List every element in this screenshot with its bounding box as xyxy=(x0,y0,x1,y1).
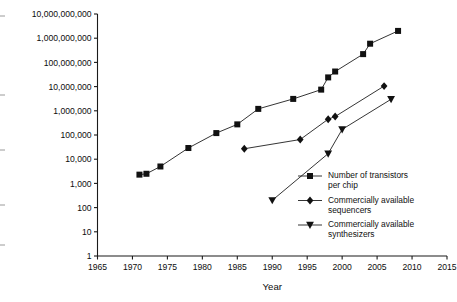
data-point-marker xyxy=(213,130,219,136)
data-point-marker xyxy=(325,74,331,80)
legend-label-line2: per chip xyxy=(328,180,358,190)
data-point-marker xyxy=(338,126,346,133)
x-axis-tick-label: 1985 xyxy=(228,262,247,272)
y-axis-tick-label: 1,000,000,000 xyxy=(37,33,92,43)
data-point-marker xyxy=(234,121,240,127)
data-point-marker xyxy=(297,136,304,144)
series-square xyxy=(136,28,401,178)
legend-label-line2: sequencers xyxy=(328,205,371,215)
x-axis-tick-label: 1995 xyxy=(298,262,317,272)
legend-marker-triangle-down-icon xyxy=(306,222,314,229)
data-point-marker xyxy=(325,115,332,123)
chart-legend: Number of transistorsper chipCommerciall… xyxy=(298,170,414,239)
y-axis-tick-label: 10 xyxy=(82,227,92,237)
x-axis-tick-label: 1980 xyxy=(193,262,212,272)
legend-label-line2: synthesizers xyxy=(328,229,375,239)
data-point-marker xyxy=(395,28,401,34)
data-point-marker xyxy=(157,163,163,169)
series-line xyxy=(244,86,384,149)
data-point-marker xyxy=(185,145,191,151)
legend-label-line1: Commercially available xyxy=(328,219,414,229)
log-line-chart: 1101001,00010,000100,0001,000,00010,000,… xyxy=(0,0,457,302)
y-axis-tick-label: 100 xyxy=(77,203,92,213)
x-axis-tick-label: 2000 xyxy=(333,262,352,272)
x-axis-tick-label: 2005 xyxy=(368,262,387,272)
x-axis-tick-label: 1970 xyxy=(123,262,142,272)
data-point-marker xyxy=(318,87,324,93)
x-axis-tick-label: 2010 xyxy=(402,262,421,272)
data-point-marker xyxy=(324,150,332,157)
data-point-marker xyxy=(268,197,276,204)
y-axis-tick-label: 1 xyxy=(87,251,92,261)
series-diamond xyxy=(241,82,388,153)
data-point-marker xyxy=(387,96,395,103)
legend-label-line1: Number of transistors xyxy=(328,170,408,180)
y-axis-tick-label: 10,000,000,000 xyxy=(32,9,92,19)
x-axis-title: Year xyxy=(263,281,283,292)
x-axis-tick-label: 1965 xyxy=(88,262,107,272)
y-axis-tick-label: 1,000,000 xyxy=(53,106,91,116)
data-point-marker xyxy=(381,82,388,90)
legend-item-triangle-down[interactable]: Commercially availablesynthesizers xyxy=(298,219,414,239)
x-axis-tick-label: 1975 xyxy=(158,262,177,272)
legend-item-diamond[interactable]: Commercially availablesequencers xyxy=(298,195,414,215)
data-point-marker xyxy=(360,51,366,57)
chart-figure: 1101001,00010,000100,0001,000,00010,000,… xyxy=(0,0,457,302)
data-point-marker xyxy=(367,41,373,47)
data-point-marker xyxy=(290,96,296,102)
x-axis-tick-label: 1990 xyxy=(263,262,282,272)
y-axis-tick-label: 100,000 xyxy=(60,130,91,140)
y-axis-tick-label: 1,000 xyxy=(70,179,92,189)
x-axis-tick-label: 2015 xyxy=(437,262,456,272)
data-point-marker xyxy=(136,172,142,178)
y-axis-tick-label: 100,000,000 xyxy=(44,58,92,68)
y-axis-tick-label: 10,000,000 xyxy=(48,82,91,92)
data-point-marker xyxy=(332,69,338,75)
data-point-marker xyxy=(241,145,248,153)
legend-marker-square-icon xyxy=(307,173,313,179)
legend-label-line1: Commercially available xyxy=(328,195,414,205)
data-point-marker xyxy=(255,106,261,112)
data-point-marker xyxy=(143,171,149,177)
legend-marker-diamond-icon xyxy=(307,197,314,205)
legend-item-square[interactable]: Number of transistorsper chip xyxy=(298,170,408,190)
series-line xyxy=(139,31,398,175)
data-point-marker xyxy=(332,113,339,121)
y-axis-tick-label: 10,000 xyxy=(65,154,92,164)
